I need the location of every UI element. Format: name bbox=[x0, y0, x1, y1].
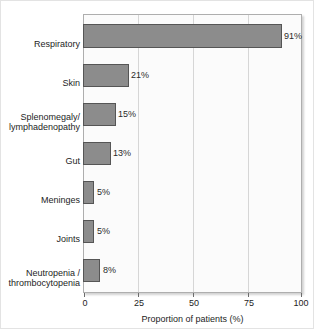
category-label-respiratory: Respiratory bbox=[1, 39, 80, 49]
bar-value-meninges: 5% bbox=[97, 188, 110, 197]
x-tick-label-25: 25 bbox=[134, 298, 144, 308]
bar-respiratory bbox=[83, 24, 282, 48]
x-tick-75 bbox=[248, 293, 249, 297]
x-tick-50 bbox=[193, 293, 194, 297]
bar-value-neutropenia-thrombocytopenia: 8% bbox=[103, 266, 116, 275]
category-label-meninges: Meninges bbox=[1, 195, 80, 205]
x-tick-0 bbox=[84, 293, 85, 297]
bar-value-joints: 5% bbox=[97, 227, 110, 236]
category-label-skin: Skin bbox=[1, 78, 80, 88]
category-label-neutropenia-thrombocytopenia: Neutropenia / thrombocytopenia bbox=[1, 268, 80, 288]
x-tick-100 bbox=[301, 293, 302, 297]
bar-neutropenia-thrombocytopenia bbox=[83, 259, 100, 282]
bar-meninges bbox=[83, 181, 94, 204]
category-label-joints: Joints bbox=[1, 234, 80, 244]
bar-value-respiratory: 91% bbox=[284, 32, 302, 41]
bar-chart-figure: Respiratory Skin Splenomegaly/ lymphaden… bbox=[0, 0, 314, 329]
category-axis: Respiratory Skin Splenomegaly/ lymphaden… bbox=[1, 14, 80, 293]
x-tick-25 bbox=[138, 293, 139, 297]
x-axis-title: Proportion of patients (%) bbox=[83, 314, 302, 324]
bar-gut bbox=[83, 142, 111, 165]
x-tick-label-0: 0 bbox=[82, 298, 87, 308]
x-tick-label-75: 75 bbox=[244, 298, 254, 308]
bar-value-skin: 21% bbox=[131, 71, 149, 80]
bar-value-splenomegaly-lymphadenopathy: 15% bbox=[118, 110, 136, 119]
category-label-splenomegaly-lymphadenopathy: Splenomegaly/ lymphadenopathy bbox=[1, 112, 80, 132]
x-tick-label-100: 100 bbox=[293, 298, 308, 308]
category-label-gut: Gut bbox=[1, 156, 80, 166]
bars-layer: 91% 21% 15% 13% 5% 5% 8% bbox=[83, 14, 302, 293]
x-axis: 0 25 50 75 100 bbox=[83, 293, 302, 299]
bar-splenomegaly-lymphadenopathy bbox=[83, 103, 116, 126]
bar-skin bbox=[83, 64, 129, 87]
bar-value-gut: 13% bbox=[113, 149, 131, 158]
bar-joints bbox=[83, 220, 94, 243]
x-tick-label-50: 50 bbox=[189, 298, 199, 308]
